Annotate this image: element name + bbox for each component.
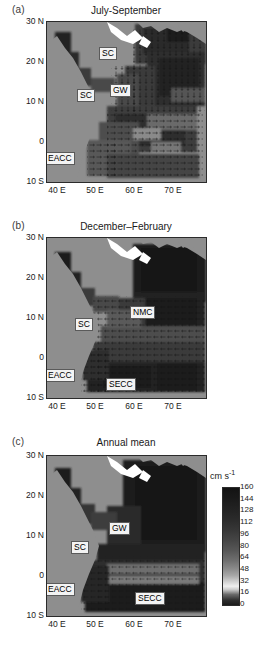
colorbar-units-exponent: -1 [229, 469, 235, 476]
y-axis-c: 30 N 20 N 10 N 0 10 S [0, 455, 44, 615]
panel-title-c: Annual mean [46, 437, 206, 449]
y-tick-10n-b: 10 N [4, 313, 44, 322]
map-label-sc-c: SC [71, 541, 89, 554]
colorbar-tick-64: 64 [240, 552, 268, 561]
colorbar-units-label: cm s-1 [210, 468, 235, 481]
map-label-secc-c: SECC [135, 592, 165, 605]
x-tick-70e-c: 70 E [153, 620, 193, 629]
colorbar-gradient [222, 487, 240, 606]
colorbar-units-text: cm s [210, 471, 229, 481]
x-tick-40e-b: 40 E [37, 402, 77, 411]
x-tick-70e-a: 70 E [153, 186, 193, 195]
y-tick-0-c: 0 [4, 571, 44, 580]
y-tick-30n-b: 30 N [4, 233, 44, 242]
map-axes-c: GW SC EACC SECC [46, 455, 207, 617]
colorbar-tick-112: 112 [240, 517, 268, 526]
y-tick-20n-a: 20 N [4, 57, 44, 66]
y-tick-20n-c: 20 N [4, 491, 44, 500]
y-axis-a: 30 N 20 N 10 N 0 10 S [0, 21, 44, 181]
panel-july-september: (a) July-September 30 N 20 N 10 N 0 10 S [0, 0, 271, 216]
y-tick-10n-a: 10 N [4, 97, 44, 106]
map-label-eacc-c: EACC [46, 583, 75, 596]
panel-december-february: (b) December–February 30 N 20 N 10 N 0 1… [0, 216, 271, 432]
y-tick-0-b: 0 [4, 353, 44, 362]
map-label-secc-b: SECC [106, 378, 136, 391]
map-label-eacc-b: EACC [46, 369, 75, 382]
x-tick-70e-b: 70 E [153, 402, 193, 411]
panel-letter-a: (a) [12, 4, 25, 15]
colorbar-tick-80: 80 [240, 541, 268, 550]
colorbar-tick-32: 32 [240, 576, 268, 585]
x-tick-60e-c: 60 E [114, 620, 154, 629]
x-tick-50e-a: 50 E [75, 186, 115, 195]
y-tick-10s-a: 10 S [4, 177, 44, 186]
y-tick-30n-a: 30 N [4, 17, 44, 26]
y-tick-10s-c: 10 S [4, 611, 44, 620]
x-tick-40e-c: 40 E [37, 620, 77, 629]
x-tick-40e-a: 40 E [37, 186, 77, 195]
x-axis-b: 40 E 50 E 60 E 70 E [46, 399, 205, 415]
figure-root: (a) July-September 30 N 20 N 10 N 0 10 S [0, 0, 271, 654]
x-tick-60e-a: 60 E [114, 186, 154, 195]
x-axis-c: 40 E 50 E 60 E 70 E [46, 617, 205, 633]
colorbar-tick-16: 16 [240, 587, 268, 596]
colorbar-ticks: 160 144 128 112 96 80 64 48 32 16 0 [240, 482, 270, 610]
x-tick-60e-b: 60 E [114, 402, 154, 411]
map-label-sc-b: SC [75, 318, 93, 331]
map-label-gw-a: GW [110, 84, 131, 97]
colorbar-tick-160: 160 [240, 482, 268, 491]
colorbar-tick-128: 128 [240, 505, 268, 514]
x-tick-50e-c: 50 E [75, 620, 115, 629]
map-axes-b: SC NMC EACC SECC [46, 237, 207, 399]
map-label-sc-north-a: SC [99, 47, 117, 60]
map-label-eacc-a: EACC [46, 152, 75, 165]
y-tick-10n-c: 10 N [4, 531, 44, 540]
panel-letter-c: (c) [12, 436, 24, 447]
x-axis-a: 40 E 50 E 60 E 70 E [46, 183, 205, 199]
panel-title-b: December–February [46, 221, 206, 233]
map-label-nmc-b: NMC [130, 306, 155, 319]
y-tick-20n-b: 20 N [4, 273, 44, 282]
x-tick-50e-b: 50 E [75, 402, 115, 411]
y-tick-30n-c: 30 N [4, 451, 44, 460]
y-axis-b: 30 N 20 N 10 N 0 10 S [0, 237, 44, 397]
colorbar-tick-96: 96 [240, 529, 268, 538]
colorbar-tick-144: 144 [240, 494, 268, 503]
y-tick-10s-b: 10 S [4, 393, 44, 402]
panel-title-a: July-September [46, 5, 206, 17]
map-label-sc-south-a: SC [77, 89, 95, 102]
map-label-gw-c: GW [109, 522, 130, 535]
colorbar-tick-48: 48 [240, 564, 268, 573]
panel-letter-b: (b) [12, 220, 25, 231]
map-axes-a: SC SC GW EACC [46, 21, 207, 183]
y-tick-0-a: 0 [4, 137, 44, 146]
colorbar-tick-0: 0 [240, 599, 268, 608]
